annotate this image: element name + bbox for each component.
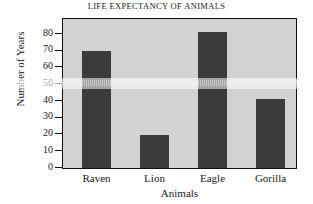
- plot-area: [62, 18, 297, 169]
- y-tick-label: 80: [43, 28, 53, 38]
- bar-gorilla: [256, 99, 285, 168]
- y-tick-label: 40: [43, 95, 53, 105]
- bar-eagle: [198, 32, 227, 168]
- y-tick-label: 30: [43, 111, 53, 121]
- bar-chart-figure: LIFE EXPECTANCY OF ANIMALS Number of Yea…: [0, 0, 313, 204]
- x-tick-label-lion: Lion: [126, 172, 184, 184]
- y-tick-label: 60: [43, 61, 53, 71]
- x-tick-label-eagle: Eagle: [184, 172, 242, 184]
- x-tick-label-gorilla: Gorilla: [242, 172, 300, 184]
- x-axis-title: Animals: [62, 187, 297, 199]
- y-tick-label: 10: [43, 145, 53, 155]
- y-tick-label: 70: [43, 44, 53, 54]
- y-axis-title: Number of Years: [14, 9, 26, 129]
- y-tick-label: 20: [43, 128, 53, 138]
- chart-title: LIFE EXPECTANCY OF ANIMALS: [0, 1, 313, 11]
- x-tick-label-raven: Raven: [68, 172, 126, 184]
- y-tick-label: 50: [43, 78, 53, 88]
- bar-lion: [140, 135, 169, 169]
- plot-bars-container: [63, 19, 296, 168]
- bar-raven: [82, 51, 111, 168]
- y-tick-label: 0: [48, 162, 53, 172]
